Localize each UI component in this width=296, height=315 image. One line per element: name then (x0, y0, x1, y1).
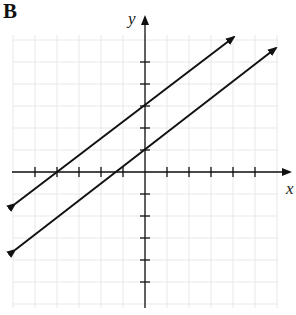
y-axis-label: y (126, 9, 136, 28)
x-axis-label: x (285, 179, 294, 198)
coordinate-plane: x y (0, 0, 296, 315)
